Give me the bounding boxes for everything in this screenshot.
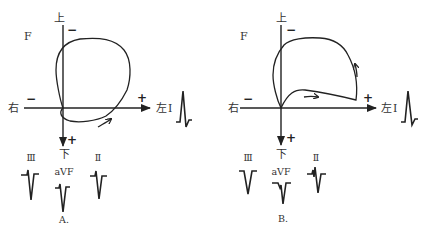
axis-label-bottom: 下: [276, 148, 287, 161]
lead-avf-label: aVF: [54, 166, 74, 177]
lead-avf-waveform: [272, 183, 291, 204]
lead-label-i: I: [393, 102, 397, 115]
lead-iii-waveform: [21, 170, 39, 200]
plane-label: F: [24, 30, 32, 43]
vectorcardiogram-figure: 上 F − 右 − + 左 I + 下 Ⅲ aVF Ⅱ A. 上 F − 右 −…: [0, 0, 425, 228]
panel-caption: B.: [278, 213, 288, 224]
axis-label-right: 左: [381, 102, 392, 115]
lead-label-i: I: [168, 102, 172, 115]
axis-label-right: 左: [156, 102, 167, 115]
sign-right: +: [363, 91, 373, 105]
panel-caption: A.: [58, 214, 69, 225]
plane-label: F: [240, 30, 248, 43]
lead-iii-label: Ⅲ: [26, 152, 35, 163]
axis-label-top: 上: [54, 12, 65, 25]
axis-label-left: 右: [228, 101, 239, 115]
lead-ii-label: Ⅱ: [95, 152, 101, 163]
panel-b: 上 F − 右 − + 左 I + 下 Ⅲ aVF Ⅱ B.: [228, 12, 418, 224]
lead-avf-waveform: [55, 184, 70, 212]
sign-bottom: +: [286, 131, 296, 145]
lead-iii-waveform: [239, 171, 257, 194]
rotation-arrow: [98, 119, 111, 127]
qrs-loop: [56, 38, 130, 121]
axis-label-left: 右: [8, 101, 19, 115]
sign-top: −: [286, 23, 296, 37]
axis-label-bottom: 下: [59, 148, 70, 161]
lead-ii-waveform: [307, 167, 326, 193]
sign-left: −: [26, 92, 36, 106]
lead-ii-waveform: [90, 171, 107, 199]
rotation-arrow-bottom: [304, 96, 318, 97]
panel-a: 上 F − 右 − + 左 I + 下 Ⅲ aVF Ⅱ A.: [8, 12, 192, 225]
sign-right: +: [137, 91, 147, 105]
lead-i-waveform: [401, 91, 418, 125]
sign-top: −: [67, 23, 77, 37]
lead-avf-label: aVF: [271, 166, 291, 177]
lead-ii-label: Ⅱ: [313, 152, 319, 163]
lead-i-waveform: [176, 91, 192, 127]
lead-iii-label: Ⅲ: [243, 152, 252, 163]
sign-bottom: +: [67, 133, 77, 147]
axis-label-top: 上: [276, 12, 287, 25]
qrs-loop: [273, 38, 357, 108]
sign-left: −: [243, 92, 253, 106]
